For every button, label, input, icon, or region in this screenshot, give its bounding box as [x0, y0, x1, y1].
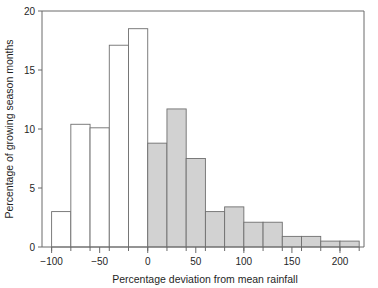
histogram-bar [225, 207, 244, 247]
histogram-bar [148, 143, 167, 247]
bars-group [52, 29, 360, 247]
rainfall-deviation-histogram: −100−50050100150200 05101520 Percentage … [0, 0, 378, 288]
histogram-figure: −100−50050100150200 05101520 Percentage … [0, 0, 378, 288]
x-tick-label: 200 [332, 256, 349, 267]
y-tick-label: 15 [24, 65, 36, 76]
histogram-bar [129, 29, 148, 247]
x-tick-label: 0 [145, 256, 151, 267]
x-tick-label: −50 [91, 256, 108, 267]
histogram-bar [71, 124, 90, 247]
y-tick-label: 0 [29, 242, 35, 253]
histogram-bar [263, 222, 282, 247]
y-axis-ticks: 05101520 [24, 6, 42, 253]
x-axis-ticks: −100−50050100150200 [40, 247, 359, 267]
y-tick-label: 10 [24, 124, 36, 135]
x-tick-label: 150 [284, 256, 301, 267]
y-tick-label: 5 [29, 183, 35, 194]
histogram-bar [321, 241, 340, 247]
histogram-bar [205, 212, 224, 247]
histogram-bar [244, 222, 263, 247]
histogram-bar [186, 159, 205, 248]
y-tick-label: 20 [24, 6, 36, 17]
x-tick-label: −100 [40, 256, 63, 267]
x-tick-label: 100 [236, 256, 253, 267]
x-axis-title: Percentage deviation from mean rainfall [112, 273, 298, 285]
histogram-bar [90, 128, 109, 247]
histogram-bar [340, 241, 359, 247]
histogram-bar [109, 45, 128, 247]
histogram-bar [167, 109, 186, 247]
histogram-bar [302, 236, 321, 247]
x-tick-label: 50 [190, 256, 202, 267]
y-axis-title: Percentage of growing season months [3, 39, 15, 218]
histogram-bar [52, 212, 71, 247]
histogram-bar [282, 236, 301, 247]
